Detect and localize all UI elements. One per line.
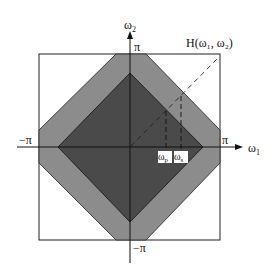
x-pos-pi-label: π: [222, 133, 228, 147]
y-pos-pi-label: π: [134, 40, 140, 54]
x-axis-arrow-icon: [235, 144, 243, 150]
diagram-canvas: ω2 ω1 π −π π −π H(ω₁, ω₂) ωp ωs: [0, 0, 275, 275]
y-axis-label: ω2: [124, 18, 136, 34]
x-neg-pi-label: −π: [19, 133, 32, 147]
y-neg-pi-label: −π: [133, 241, 146, 255]
x-axis-label: ω1: [248, 141, 260, 157]
filter-frequency-response-diagram: ω2 ω1 π −π π −π H(ω₁, ω₂) ωp ωs: [0, 0, 275, 275]
frequency-response-title: H(ω₁, ω₂): [186, 36, 233, 50]
